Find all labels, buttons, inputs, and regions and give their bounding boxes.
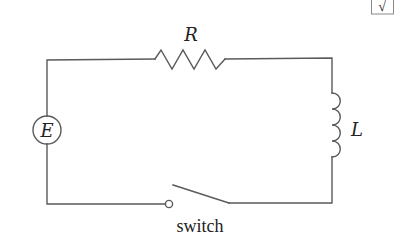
corner-box-icon: √ <box>372 0 394 14</box>
corner-glyph: √ <box>378 0 386 14</box>
switch-arm <box>173 185 229 203</box>
switch-terminal <box>165 200 172 207</box>
rl-circuit-diagram: √ E R L switch <box>0 0 397 246</box>
inductor-symbol <box>332 93 340 157</box>
switch-label: switch <box>177 216 224 236</box>
resistor-label: R <box>183 24 198 45</box>
wire-top-left <box>47 59 155 116</box>
inductor-label: L <box>350 119 363 140</box>
source-label: E <box>39 120 53 141</box>
resistor-symbol <box>155 50 225 69</box>
wire-bottom-left <box>47 144 165 204</box>
wire-bottom-right <box>229 157 332 203</box>
wire-top-right <box>225 58 332 93</box>
